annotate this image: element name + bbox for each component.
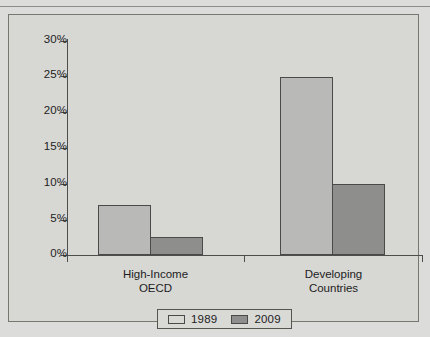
y-tick-25: 25% [9, 76, 67, 77]
legend-item-2009[interactable]: 2009 [231, 313, 280, 325]
legend-swatch-1989-icon [168, 315, 185, 324]
y-tick-label-30: 30% [21, 33, 67, 45]
bar-high-income-oecd-2009[interactable] [150, 237, 203, 255]
y-tick-20: 20% [9, 112, 67, 113]
bars-layer [67, 41, 423, 255]
bar-developing-countries-2009[interactable] [332, 184, 385, 255]
y-tick-30: 30% [9, 41, 67, 42]
y-tick-label-5: 5% [21, 212, 67, 224]
bar-high-income-oecd-1989[interactable] [98, 205, 151, 255]
category-label-developing-countries: Developing Countries [245, 267, 422, 295]
y-tick-label-25: 25% [21, 68, 67, 80]
y-tick-10: 10% [9, 184, 67, 185]
y-tick-label-20: 20% [21, 104, 67, 116]
x-tick-end [422, 255, 423, 262]
bar-developing-countries-1989[interactable] [280, 77, 333, 255]
legend-label-1989: 1989 [191, 313, 217, 325]
category-label-high-income-oecd: High-Income OECD [67, 267, 244, 295]
x-tick-start [67, 255, 68, 262]
legend-swatch-2009-icon [231, 315, 248, 324]
page-top-rule [0, 6, 430, 7]
y-tick-label-15: 15% [21, 140, 67, 152]
y-tick-5: 5% [9, 220, 67, 221]
y-tick-label-10: 10% [21, 176, 67, 188]
legend: 1989 2009 [157, 309, 292, 329]
y-tick-0: 0% [9, 255, 67, 256]
x-tick-mid [244, 255, 245, 262]
legend-label-2009: 2009 [254, 313, 280, 325]
y-tick-label-0: 0% [21, 247, 67, 259]
x-axis-line [67, 255, 423, 256]
chart-figure: 30% 25% 20% 15% 10% 5% 0% [0, 0, 430, 337]
legend-item-1989[interactable]: 1989 [168, 313, 217, 325]
y-tick-15: 15% [9, 148, 67, 149]
figure-frame: 30% 25% 20% 15% 10% 5% 0% [8, 14, 419, 322]
